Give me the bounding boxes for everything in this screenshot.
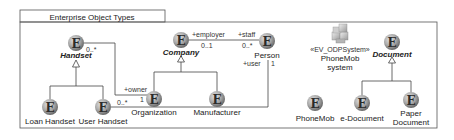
svg-text:E: E xyxy=(310,97,319,111)
entity-label-line2: Document xyxy=(393,118,430,127)
entity-manufacturer[interactable]: E Manufacturer xyxy=(193,91,240,117)
entity-phonemob[interactable]: E PhoneMob xyxy=(296,95,335,123)
entity-label: Handset xyxy=(60,51,92,60)
mult-organization: 1 xyxy=(140,96,144,103)
role-owner: +owner xyxy=(124,86,148,93)
entity-label: User Handset xyxy=(79,117,129,126)
entity-e-document[interactable]: E e-Document xyxy=(340,95,384,123)
svg-text:E: E xyxy=(98,101,107,115)
svg-text:E: E xyxy=(176,34,185,48)
enterprise-object-types-diagram: Enterprise Object Types 0..* +owner 1 +e… xyxy=(0,0,454,140)
package-title: Enterprise Object Types xyxy=(49,13,134,22)
svg-text:E: E xyxy=(45,101,54,115)
system-name-line2: system xyxy=(327,63,353,72)
entity-person[interactable]: E Person xyxy=(254,33,279,60)
mult-company: 0..1 xyxy=(201,42,213,49)
role-employer: +employer xyxy=(192,31,226,39)
entity-document[interactable]: E Document xyxy=(372,34,411,59)
mult-person-staff: 0..* xyxy=(242,42,253,49)
system-name-line1: PhoneMob xyxy=(321,54,360,63)
entity-label: Manufacturer xyxy=(193,108,240,117)
mult-userhandset: 0..* xyxy=(117,99,128,106)
entity-paper-document[interactable]: E Paper Document xyxy=(393,92,430,127)
system-stereotype: «EV_ODPSystem» xyxy=(310,46,370,54)
entity-label: Company xyxy=(163,48,200,57)
svg-text:E: E xyxy=(149,93,158,107)
entity-label: Document xyxy=(372,50,411,59)
role-user: +user xyxy=(243,60,261,67)
svg-text:E: E xyxy=(262,35,271,49)
mult-person-user: 1 xyxy=(271,60,275,67)
system-cube-icon xyxy=(332,24,348,43)
svg-text:E: E xyxy=(406,94,415,108)
entity-label: Person xyxy=(254,51,279,60)
svg-text:E: E xyxy=(387,36,396,50)
entity-label: PhoneMob xyxy=(296,114,335,123)
entity-label: Loan Handset xyxy=(25,117,76,126)
entity-label-line1: Paper xyxy=(400,109,422,118)
entity-label: e-Document xyxy=(340,114,384,123)
svg-text:E: E xyxy=(357,97,366,111)
generalization-arrow-icon xyxy=(73,60,80,67)
entity-loan-handset[interactable]: E Loan Handset xyxy=(25,99,76,126)
association-userhandset-person xyxy=(111,60,268,107)
role-staff: +staff xyxy=(238,31,255,38)
svg-text:E: E xyxy=(71,37,80,51)
svg-text:E: E xyxy=(212,93,221,107)
odp-system-phonemob[interactable]: «EV_ODPSystem» PhoneMob system xyxy=(310,24,370,72)
entity-label: Organization xyxy=(131,108,176,117)
